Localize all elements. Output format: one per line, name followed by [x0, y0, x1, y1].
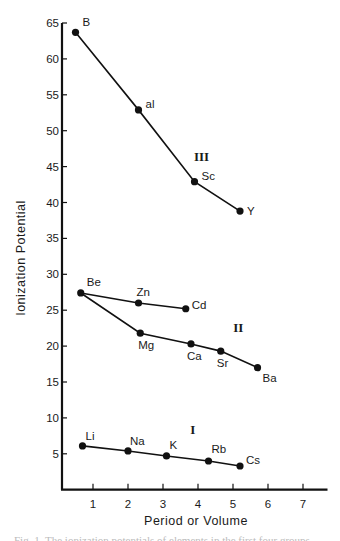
data-series-layer: BalScYBeZnCdMgCaSrBaLiNaKRbCs — [72, 16, 277, 469]
data-point-sr — [217, 348, 224, 355]
data-point-label: B — [83, 16, 91, 28]
data-point-y — [236, 208, 243, 215]
data-point-ca — [187, 340, 194, 347]
y-tick-label: 40 — [46, 197, 59, 209]
series-group-ii-be-zn-cd-: BeZnCd — [77, 276, 206, 312]
y-tick-label: 25 — [46, 304, 59, 316]
ionization-potential-chart: 5101520253035404550556065 1234567 Ioniza… — [0, 0, 340, 541]
y-tick-label: 15 — [46, 376, 59, 388]
data-point-k — [163, 452, 170, 459]
data-point-label: Mg — [138, 339, 154, 351]
data-point-label: Zn — [137, 286, 150, 298]
series-group-i: LiNaKRbCs — [79, 430, 260, 470]
y-tick-label: 65 — [46, 17, 59, 29]
x-tick-label: 3 — [160, 498, 166, 510]
y-tick-label: 50 — [46, 125, 59, 137]
x-tick-label: 1 — [90, 498, 96, 510]
data-point-label: Ba — [263, 372, 278, 384]
data-point-cd — [182, 305, 189, 312]
y-tick-label: 5 — [53, 448, 59, 460]
data-point-sc — [191, 178, 198, 185]
y-tick-label: 60 — [46, 53, 59, 65]
data-point-li — [79, 442, 86, 449]
group-label-iii: III — [194, 149, 209, 164]
data-point-label: Be — [87, 276, 101, 288]
data-point-label: Cd — [192, 299, 207, 311]
y-tick-label: 45 — [46, 161, 59, 173]
data-point-label: Cs — [246, 454, 260, 466]
data-point-al — [135, 106, 142, 113]
y-axis: 5101520253035404550556065 — [46, 17, 67, 490]
data-point-mg — [137, 330, 144, 337]
data-point-ba — [254, 364, 261, 371]
data-point-rb — [205, 457, 212, 464]
x-tick-label: 4 — [195, 498, 202, 510]
x-tick-label: 7 — [300, 498, 306, 510]
series-line — [81, 293, 258, 368]
x-tick-label: 5 — [230, 498, 236, 510]
y-tick-label: 30 — [46, 268, 59, 280]
y-tick-label: 20 — [46, 340, 59, 352]
data-point-label: Y — [247, 205, 255, 217]
data-point-label: Li — [86, 430, 95, 442]
group-labels: IIIIII — [190, 149, 243, 437]
data-point-label: Sc — [202, 170, 216, 182]
y-tick-label: 10 — [46, 412, 59, 424]
data-point-label: Ca — [187, 350, 202, 362]
data-point-label: Rb — [212, 443, 227, 455]
y-tick-label: 55 — [46, 89, 59, 101]
data-point-label: Sr — [217, 357, 229, 369]
data-point-zn — [135, 299, 142, 306]
x-tick-label: 6 — [265, 498, 271, 510]
group-label-ii: II — [233, 320, 243, 335]
series-group-iii: BalScY — [72, 16, 255, 217]
series-line — [76, 32, 241, 211]
data-point-b — [72, 29, 79, 36]
series-group-ii-be-mg-ca-sr-ba-: MgCaSrBa — [81, 293, 277, 384]
x-tick-label: 2 — [125, 498, 131, 510]
y-axis-title: Ionization Potential — [14, 200, 28, 316]
data-point-label: al — [146, 98, 155, 110]
data-point-label: Na — [130, 435, 145, 447]
data-point-label: K — [170, 439, 178, 451]
x-axis: 1234567 — [61, 484, 328, 510]
data-point-cs — [236, 462, 243, 469]
series-line — [81, 293, 186, 309]
figure-caption: Fig. 1. The ionization potentials of ele… — [14, 531, 334, 541]
x-axis-title: Period or Volume — [144, 514, 248, 528]
data-point-na — [124, 447, 131, 454]
group-label-i: I — [190, 422, 195, 437]
y-tick-label: 35 — [46, 232, 59, 244]
